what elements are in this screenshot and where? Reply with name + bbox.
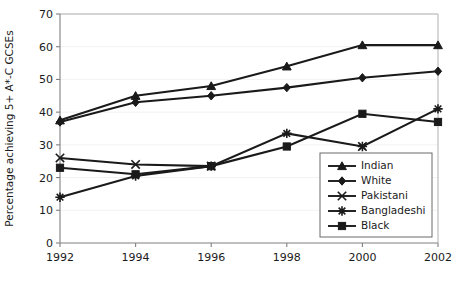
x-axis-tick-label: 2002	[424, 251, 452, 264]
marker-diamond	[434, 67, 441, 75]
marker-diamond	[283, 83, 290, 91]
legend-label-pakistani: Pakistani	[361, 189, 408, 201]
marker-asterisk	[433, 104, 442, 113]
marker-square	[338, 222, 345, 229]
y-axis-tick-label: 50	[39, 73, 53, 86]
marker-square	[359, 110, 366, 117]
y-axis-tick-label: 60	[39, 41, 53, 54]
y-axis-tick-label: 10	[39, 204, 53, 217]
x-axis-tick-label: 2000	[348, 251, 376, 264]
legend-label-indian: Indian	[361, 159, 393, 171]
marker-square	[434, 118, 441, 125]
legend-label-bangladeshi: Bangladeshi	[361, 204, 425, 216]
series-line-indian	[60, 45, 438, 120]
marker-square	[56, 164, 63, 171]
y-axis-tick-label: 70	[39, 8, 53, 21]
y-axis-tick-label: 20	[39, 172, 53, 185]
x-axis-tick-label: 1996	[197, 251, 225, 264]
marker-square	[132, 171, 139, 178]
marker-square	[283, 143, 290, 150]
marker-diamond	[359, 74, 366, 82]
marker-asterisk	[282, 129, 291, 138]
legend-label-white: White	[361, 174, 392, 186]
line-chart: 010203040506070199219941996199820002002P…	[0, 0, 456, 281]
x-axis-tick-label: 1992	[46, 251, 74, 264]
series-line-white	[60, 71, 438, 122]
series-indian	[56, 41, 443, 124]
marker-square	[208, 163, 215, 170]
y-axis-tick-label: 0	[46, 237, 53, 250]
legend: IndianWhitePakistaniBangladeshiBlack	[320, 153, 432, 237]
x-axis-tick-label: 1998	[273, 251, 301, 264]
marker-diamond	[208, 92, 215, 100]
chart-canvas: 010203040506070199219941996199820002002P…	[0, 0, 456, 281]
x-axis-tick-label: 1994	[122, 251, 150, 264]
marker-asterisk	[55, 193, 64, 202]
marker-asterisk	[337, 206, 346, 215]
marker-asterisk	[358, 142, 367, 151]
y-axis-tick-label: 30	[39, 139, 53, 152]
legend-label-black: Black	[361, 219, 390, 231]
y-axis-title: Percentage achieving 5+ A*-C GCSEs	[3, 30, 15, 226]
y-axis-tick-label: 40	[39, 106, 53, 119]
